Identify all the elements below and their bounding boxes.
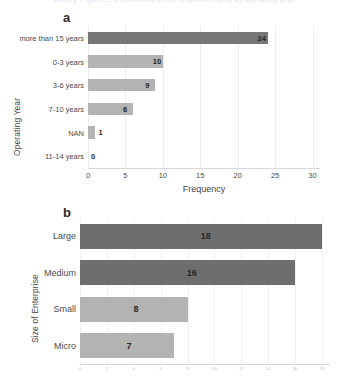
figure-panel-b: b Size of Enterprise LargeMediumSmallMic… (0, 198, 348, 388)
x-axis-title-a: Frequency (183, 184, 226, 194)
bar-value-label: 0 (91, 152, 95, 161)
category-label: 11-14 years (45, 152, 84, 161)
category-label: Large (53, 231, 76, 241)
bar-row: 24 (88, 32, 320, 44)
panel-label-a: a (63, 10, 70, 25)
bar-value-label: 7 (126, 341, 131, 351)
x-tick-label: 8 (186, 366, 188, 371)
gridline (163, 26, 164, 168)
x-tick-label: 12 (239, 366, 244, 371)
bar-row: 8 (80, 297, 330, 322)
x-tick-label: 30 (308, 171, 316, 180)
bar-value-label: 1 (98, 128, 102, 137)
x-tick-label: 15 (196, 171, 204, 180)
bar-value-label: 9 (145, 81, 149, 90)
gridline (125, 26, 126, 168)
bar-value-label: 18 (201, 231, 211, 241)
x-axis-line-b (80, 364, 330, 365)
gridline (238, 26, 239, 168)
gridline (88, 26, 89, 168)
category-label: Small (53, 304, 76, 314)
bar-value-label: 24 (258, 33, 266, 42)
bar-row: 9 (88, 79, 320, 91)
bar-value-label: 10 (153, 57, 161, 66)
bar-value-label: 16 (187, 268, 197, 278)
x-tick-label: 16 (293, 366, 298, 371)
panel-label-b: b (63, 205, 71, 220)
bar-row: 6 (88, 103, 320, 115)
category-label: 3-6 years (53, 81, 84, 90)
x-tick-label: 6 (159, 366, 161, 371)
bar-row: 16 (80, 260, 330, 285)
x-tick-label: 0 (86, 171, 90, 180)
x-tick-label: 2 (106, 366, 108, 371)
x-tick-label: 18 (320, 366, 325, 371)
bar-value-label: 6 (123, 104, 127, 113)
category-label: NAN (68, 128, 84, 137)
bar-row: 1 (88, 126, 320, 138)
x-tick-label: 14 (266, 366, 271, 371)
x-axis-line-a (88, 168, 320, 169)
category-label: Medium (44, 268, 76, 278)
category-label: more than 15 years (19, 33, 84, 42)
x-tick-label: 0 (79, 366, 81, 371)
gridline (313, 26, 314, 168)
bar-row: 0 (88, 150, 320, 162)
x-tick-label: 25 (271, 171, 279, 180)
bar (88, 32, 268, 44)
gridlines-a (88, 26, 320, 168)
bar-row: 10 (88, 55, 320, 67)
x-tick-label: 5 (123, 171, 127, 180)
bar-row: 7 (80, 333, 330, 358)
bar-value-label: 8 (133, 304, 138, 314)
y-axis-title-b: Size of Enterprise (30, 274, 40, 343)
y-axis-title-a: Operating Year (12, 98, 22, 156)
category-label: 0-3 years (53, 57, 84, 66)
x-tick-label: 10 (159, 171, 167, 180)
plot-area-b: 181687 (80, 218, 330, 364)
plot-area-a: 24109610 (88, 26, 320, 168)
bar (88, 55, 163, 67)
gridline (275, 26, 276, 168)
x-tick-label: 20 (234, 171, 242, 180)
gridline (200, 26, 201, 168)
category-label: 7-10 years (49, 104, 84, 113)
bar (88, 126, 95, 138)
category-label: Micro (54, 341, 76, 351)
figure-panel-a: a Operating Year more than 15 years0-3 y… (0, 4, 348, 196)
x-tick-label: 10 (212, 366, 217, 371)
bar-row: 18 (80, 224, 330, 249)
x-tick-label: 4 (133, 366, 135, 371)
